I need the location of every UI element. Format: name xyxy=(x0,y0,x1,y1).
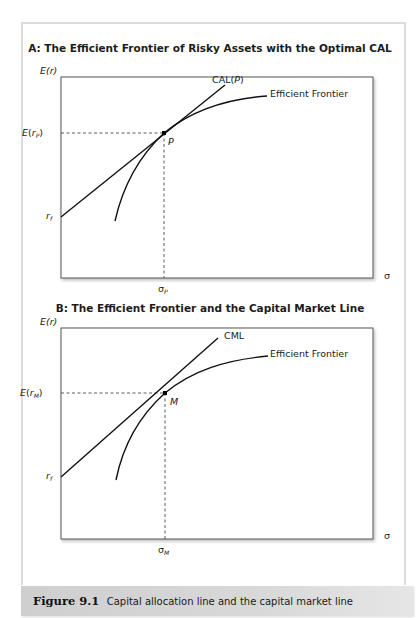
panel-a-cal-label: CAL(P) xyxy=(212,74,244,85)
figure-number: Figure 9.1 xyxy=(33,594,99,608)
panel-b-rf-label: rf xyxy=(46,470,53,482)
panel-b-plot-area xyxy=(61,328,373,539)
panel-b-y-axis-label: E(r) xyxy=(40,316,57,327)
panel-a-x-axis-label: σ xyxy=(384,270,390,281)
panel-a-frontier-label: Efficient Frontier xyxy=(270,88,348,99)
panel-a-point-label: P xyxy=(168,136,174,147)
panel-a-y-axis-label: E(r) xyxy=(40,65,57,76)
panel-b-y-tick-erm: E(rM) xyxy=(20,387,43,399)
figure-caption-text: Capital allocation line and the capital … xyxy=(107,596,353,607)
panel-a-y-tick-erp: E(rP) xyxy=(22,127,43,139)
panel-b-frontier-label: Efficient Frontier xyxy=(270,348,348,359)
panel-b-point-m xyxy=(163,391,167,395)
figure-caption: Figure 9.1 Capital allocation line and t… xyxy=(21,586,413,616)
panel-a-rf-label: rf xyxy=(46,210,53,222)
panel-a-plot: E(r) CAL(P) Efficient Frontier P E(rP) r… xyxy=(22,65,390,295)
panel-b-cml-label: CML xyxy=(224,330,245,341)
panel-b-plot: E(r) CML Efficient Frontier M E(rM) rf σ… xyxy=(20,316,390,556)
panel-a-plot-area xyxy=(61,77,373,278)
panel-a-x-tick-sigma-p: σP xyxy=(158,283,168,295)
panel-b-x-axis-label: σ xyxy=(384,530,390,541)
panel-a-point-p xyxy=(162,131,166,135)
chart-canvas: E(r) CAL(P) Efficient Frontier P E(rP) r… xyxy=(0,0,420,618)
panel-b-x-tick-sigma-m: σM xyxy=(158,544,170,556)
panel-b-point-label: M xyxy=(170,396,178,407)
